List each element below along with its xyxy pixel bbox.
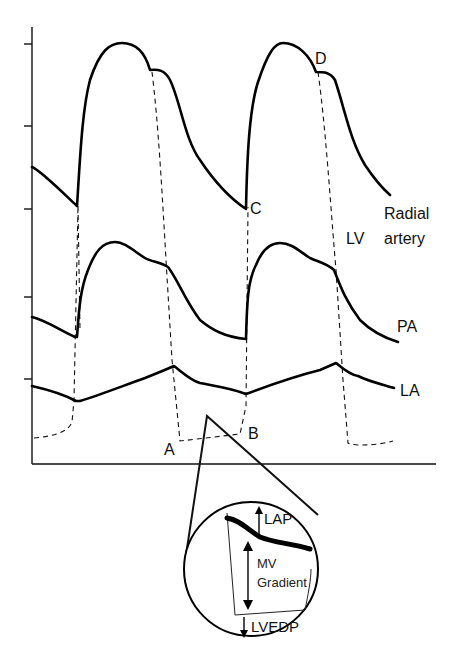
pa-trace: [32, 242, 398, 342]
label-point-b: B: [248, 425, 259, 442]
inset-label-lap: LAP: [264, 510, 292, 527]
label-radial-line1: Radial: [384, 205, 429, 222]
label-la: LA: [400, 382, 420, 399]
label-radial-line2: artery: [384, 230, 425, 247]
inset-label-mv: MV: [257, 556, 277, 571]
radial-artery-trace: [32, 43, 390, 209]
zoom-callout: LAP MV Gradient LVEDP: [184, 416, 318, 638]
label-point-a: A: [164, 441, 175, 458]
label-point-d: D: [315, 50, 327, 67]
la-trace: [32, 363, 394, 401]
lv-trace: [34, 72, 393, 445]
inset-label-gradient: Gradient: [257, 575, 307, 590]
label-lv: LV: [346, 230, 365, 247]
label-point-c: C: [250, 200, 262, 217]
label-pa: PA: [397, 318, 417, 335]
inset-label-lvedp: LVEDP: [251, 618, 299, 635]
inset-circle: [184, 502, 318, 636]
pressure-waveform-diagram: Radial artery LV PA LA A B C D LAP MV Gr…: [0, 0, 454, 667]
